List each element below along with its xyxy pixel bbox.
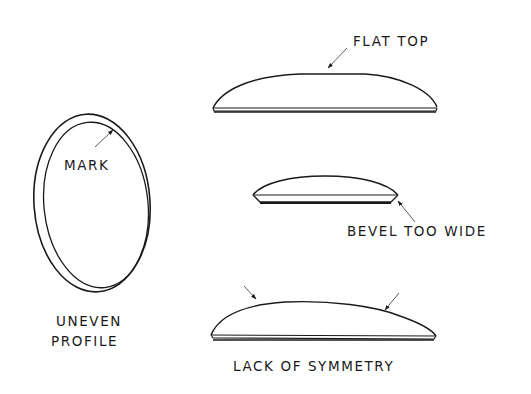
flat-top-arrow-icon <box>328 48 347 68</box>
uneven-profile-caption-line1: UNEVEN <box>56 315 122 329</box>
mark-label: MARK <box>64 159 110 173</box>
bevel-too-wide-label: BEVEL TOO WIDE <box>347 225 487 239</box>
bevel-too-wide-lens-icon <box>253 176 398 203</box>
uneven-profile-caption-line2: PROFILE <box>51 335 118 349</box>
flat-top-lens-icon <box>213 74 437 112</box>
lens-defects-diagram: MARK UNEVEN PROFILE FLAT TOP BEVEL TOO W… <box>0 0 531 394</box>
symmetry-left-arrow-icon <box>244 286 256 299</box>
uneven-profile-lens-icon <box>28 110 156 296</box>
bevel-arrow-icon <box>398 201 415 222</box>
symmetry-right-arrow-icon <box>385 293 399 310</box>
flat-top-label: FLAT TOP <box>353 35 429 49</box>
lack-of-symmetry-caption: LACK OF SYMMETRY <box>233 360 394 374</box>
asymmetric-lens-icon <box>211 302 436 340</box>
mark-arrow-icon <box>95 130 113 147</box>
